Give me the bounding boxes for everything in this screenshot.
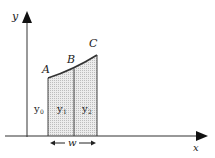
shaded-area [48, 55, 97, 136]
strip-label-y0: y 0 [33, 103, 44, 115]
x-axis-arrow-icon [196, 131, 208, 141]
x-axis-label: x [193, 142, 199, 153]
svg-text:y: y [33, 103, 40, 114]
y-axis-label: y [11, 10, 19, 23]
left-arrow-icon [50, 141, 55, 146]
trapezoid-rule-diagram: y x A B C y 0 y 1 y 2 w [0, 0, 215, 158]
svg-text:2: 2 [88, 108, 92, 115]
point-label-c: C [89, 37, 98, 50]
right-arrow-icon [91, 141, 96, 146]
point-label-b: B [66, 53, 75, 66]
point-label-a: A [41, 63, 50, 76]
svg-text:0: 0 [40, 108, 44, 115]
y-axis-arrow-icon [22, 11, 32, 23]
svg-text:y: y [81, 103, 88, 114]
width-label: w [68, 137, 77, 148]
svg-text:1: 1 [63, 108, 67, 115]
width-indicator: w [50, 137, 96, 148]
svg-text:y: y [56, 103, 63, 114]
